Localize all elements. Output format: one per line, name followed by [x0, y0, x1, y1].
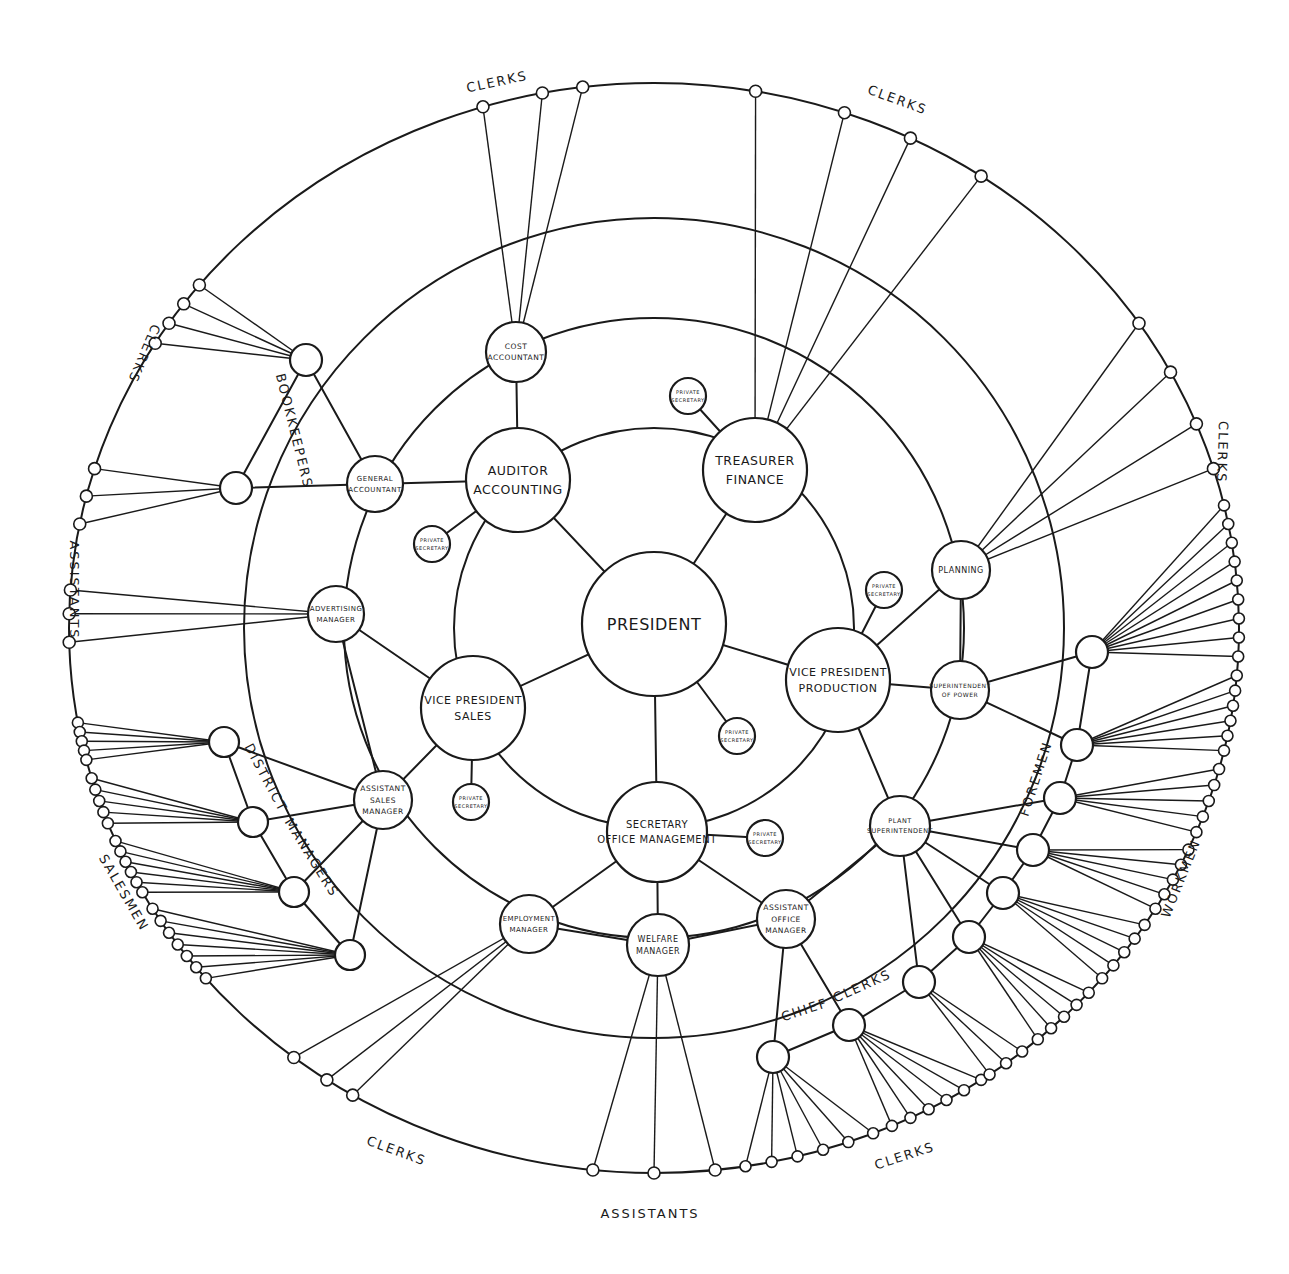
staff-member — [163, 317, 175, 329]
staff-member — [1001, 1058, 1012, 1069]
subordinate-node — [238, 807, 268, 837]
staff-member — [1191, 827, 1202, 838]
staff-line — [1092, 524, 1228, 652]
staff-member — [648, 1167, 660, 1179]
staff-line — [849, 1025, 964, 1090]
staff-member — [1133, 317, 1145, 329]
plant-superintendent-label: SUPERINTENDENT — [867, 827, 933, 835]
staff-line — [206, 955, 350, 978]
staff-member — [1108, 960, 1119, 971]
staff-line — [196, 955, 350, 967]
subordinate-node — [1061, 729, 1093, 761]
advertising-manager-label: MANAGER — [317, 616, 356, 624]
staff-member — [904, 132, 916, 144]
employment-manager-circle — [500, 895, 558, 953]
staff-line — [755, 91, 756, 470]
secretary-label: SECRETARY — [626, 819, 688, 830]
staff-line — [86, 488, 236, 496]
cost-accountant-label: COST — [505, 342, 527, 351]
node-ps-sales: PRIVATESECRETARY — [453, 784, 489, 820]
ps-president-label: PRIVATE — [725, 729, 749, 735]
advertising-manager-circle — [308, 586, 364, 642]
staff-member — [81, 754, 92, 765]
planning-label: PLANNING — [938, 566, 983, 575]
staff-member — [1233, 632, 1244, 643]
staff-line — [69, 614, 336, 642]
staff-member — [155, 915, 166, 926]
staff-member — [868, 1128, 879, 1139]
staff-member — [74, 518, 86, 530]
staff-member — [886, 1120, 897, 1131]
staff-member — [120, 856, 131, 867]
staff-member — [110, 835, 121, 846]
president-label: PRESIDENT — [607, 615, 701, 634]
treasurer-label: TREASURER — [714, 453, 795, 468]
ps-secretary-label: SECRETARY — [748, 839, 782, 845]
org-chart-diagram: PRESIDENTAUDITORACCOUNTINGTREASURERFINAN… — [0, 0, 1289, 1274]
staff-member — [172, 939, 183, 950]
group-label-clerks: CLERKS — [873, 1139, 937, 1173]
staff-member — [1165, 366, 1177, 378]
assistant-sales-manager-label: ASSISTANT — [360, 784, 405, 793]
staff-member — [102, 818, 113, 829]
node-secretary: SECRETARYOFFICE MANAGEMENT — [597, 782, 717, 882]
node-plant-superintendent: PLANTSUPERINTENDENT — [867, 796, 933, 856]
staff-member — [1225, 715, 1236, 726]
subordinate-node — [903, 966, 935, 998]
node-ps-secretary: PRIVATESECRETARY — [747, 820, 783, 856]
ps-president-label: SECRETARY — [720, 737, 754, 743]
staff-line — [84, 742, 224, 751]
node-vp-production: VICE PRESIDENTPRODUCTION — [786, 628, 890, 732]
staff-member — [1228, 700, 1239, 711]
staff-line — [131, 872, 294, 892]
staff-member — [147, 903, 158, 914]
group-label-district: DISTRICT — [242, 741, 291, 815]
vp-sales-label: VICE PRESIDENT — [424, 694, 522, 707]
staff-line — [755, 176, 981, 470]
staff-line — [516, 87, 583, 352]
staff-member — [1097, 973, 1108, 984]
staff-member — [115, 846, 126, 857]
node-superintendent-power: SUPERINTENDENTOF POWER — [929, 661, 991, 719]
assistant-sales-manager-label: SALES — [370, 796, 396, 805]
staff-line — [755, 113, 844, 470]
welfare-manager-circle — [627, 914, 689, 976]
staff-member — [1230, 685, 1241, 696]
node-assistant-sales-manager: ASSISTANTSALESMANAGER — [354, 771, 412, 829]
staff-line — [95, 469, 236, 488]
vp-production-label: PRODUCTION — [799, 682, 878, 695]
staff-line — [80, 732, 224, 742]
staff-member — [1203, 795, 1214, 806]
employment-manager-label: EMPLOYMENT — [503, 915, 556, 923]
staff-member — [1233, 651, 1244, 662]
staff-line — [919, 982, 990, 1074]
staff-line — [1092, 581, 1237, 652]
vp-production-label: VICE PRESIDENT — [789, 666, 887, 679]
group-label-bookkeepers: BOOKKEEPERS — [273, 372, 316, 490]
staff-line — [755, 138, 910, 470]
node-general-accountant: GENERALACCOUNTANT — [347, 456, 403, 512]
ps-auditor-label: SECRETARY — [415, 545, 449, 551]
staff-line — [961, 469, 1213, 570]
staff-member — [587, 1164, 599, 1176]
staff-member — [750, 85, 762, 97]
staff-member — [740, 1161, 751, 1172]
staff-line — [961, 372, 1171, 570]
node-advertising-manager: ADVERTISINGMANAGER — [308, 586, 364, 642]
subordinate-node — [1017, 834, 1049, 866]
advertising-manager-label: ADVERTISING — [310, 605, 363, 613]
staff-member — [1222, 730, 1233, 741]
staff-line — [593, 945, 658, 1170]
staff-member — [941, 1094, 952, 1105]
staff-member — [1139, 919, 1150, 930]
node-cost-accountant: COSTACCOUNTANT — [486, 322, 546, 382]
staff-member — [191, 962, 202, 973]
general-accountant-label: ACCOUNTANT — [348, 486, 402, 494]
staff-member — [89, 463, 101, 475]
subordinate-node — [1076, 636, 1108, 668]
staff-line — [1033, 850, 1173, 880]
staff-member — [984, 1069, 995, 1080]
staff-member — [1071, 999, 1082, 1010]
staff-line — [199, 285, 306, 360]
staff-member — [536, 87, 548, 99]
